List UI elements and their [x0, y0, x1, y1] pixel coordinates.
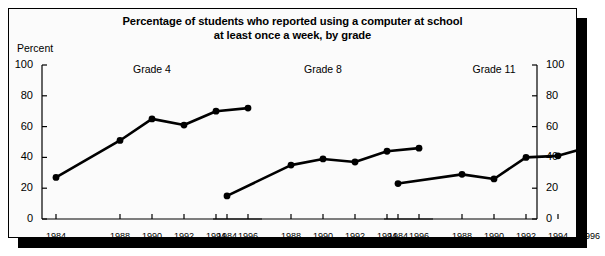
y-tick-label-right: 80	[546, 90, 580, 101]
panel-label-grade-8: Grade 8	[268, 63, 378, 75]
y-tick-label-left: 0	[9, 213, 33, 224]
x-tick-label: 1990	[476, 231, 512, 241]
x-tick-label: 1984	[209, 231, 245, 241]
y-tick-label-left: 40	[9, 151, 33, 162]
y-tick-label-right: 40	[546, 151, 580, 162]
y-tick-label-right: 0	[546, 213, 580, 224]
y-tick-label-right: 20	[546, 182, 580, 193]
x-tick-label: 1990	[134, 231, 170, 241]
panel-label-grade-4: Grade 4	[97, 63, 207, 75]
panel-label-grade-11: Grade 11	[439, 63, 549, 75]
y-tick-label-left: 60	[9, 121, 33, 132]
x-tick-label: 1984	[38, 231, 74, 241]
x-tick-label: 1994	[540, 231, 576, 241]
x-tick-label: 1990	[305, 231, 341, 241]
chart-svg	[9, 9, 578, 239]
chart-frame: Percentage of students who reported usin…	[8, 8, 577, 238]
y-tick-label-left: 20	[9, 182, 33, 193]
x-tick-label: 1984	[380, 231, 416, 241]
x-tick-label: 1992	[166, 231, 202, 241]
y-tick-label-left: 80	[9, 90, 33, 101]
x-tick-label: 1988	[102, 231, 138, 241]
y-tick-label-right: 60	[546, 121, 580, 132]
x-tick-label: 1988	[273, 231, 309, 241]
x-tick-label: 1992	[337, 231, 373, 241]
x-tick-label: 1992	[508, 231, 544, 241]
y-tick-label-right: 100	[546, 59, 580, 70]
x-tick-label: 1988	[444, 231, 480, 241]
y-tick-label-left: 100	[9, 59, 33, 70]
plot-area: 002020404060608080100100Grade 4198419881…	[9, 9, 576, 237]
x-tick-label: 1996	[572, 231, 605, 241]
